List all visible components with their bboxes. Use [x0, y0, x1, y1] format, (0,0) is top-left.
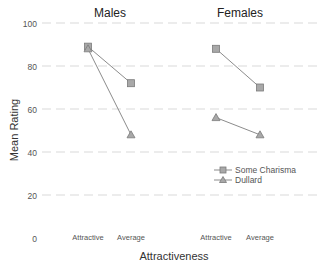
legend-label: Some Charisma — [235, 165, 296, 175]
series-line — [88, 49, 131, 135]
x-axis-label: Attractiveness — [139, 250, 209, 262]
square-icon — [220, 167, 226, 173]
panel-males: MalesAttractiveAverage — [72, 6, 145, 242]
square-marker — [213, 45, 220, 52]
y-tick-label: 100 — [23, 19, 37, 29]
y-tick-label: 80 — [28, 62, 38, 72]
y-tick-label: 0 — [32, 234, 37, 244]
legend: Some CharismaDullard — [214, 165, 296, 185]
series-line — [88, 47, 131, 84]
x-tick-label: Attractive — [200, 233, 231, 242]
x-tick-label: Attractive — [72, 233, 103, 242]
square-marker — [128, 80, 135, 87]
square-marker — [257, 84, 264, 91]
y-tick-label: 20 — [28, 191, 38, 201]
x-tick-label: Average — [117, 233, 145, 242]
triangle-marker — [212, 114, 220, 121]
legend-label: Dullard — [235, 175, 262, 185]
chart-panels: MalesAttractiveAverageFemalesAttractiveA… — [72, 6, 274, 242]
triangle-marker — [256, 131, 264, 138]
chart-canvas: 020406080100 MalesAttractiveAverageFemal… — [0, 0, 319, 275]
triangle-marker — [127, 131, 135, 138]
y-axis-ticks: 020406080100 — [23, 19, 37, 244]
y-axis-label: Mean Rating — [8, 99, 20, 161]
x-tick-label: Average — [246, 233, 274, 242]
panel-title: Males — [94, 6, 126, 20]
series-line — [216, 118, 260, 135]
y-tick-label: 40 — [28, 148, 38, 158]
panel-title: Females — [217, 6, 263, 20]
chart: 020406080100 MalesAttractiveAverageFemal… — [0, 0, 319, 275]
panel-females: FemalesAttractiveAverage — [200, 6, 274, 242]
series-line — [216, 49, 260, 88]
y-tick-label: 60 — [28, 105, 38, 115]
